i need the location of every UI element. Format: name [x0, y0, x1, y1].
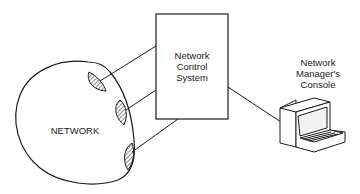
connection-line-3: [132, 119, 178, 152]
connection-line-console: [228, 87, 281, 122]
console-label: Network Manager's Console: [282, 57, 354, 90]
console-label-line2: Manager's: [282, 68, 354, 79]
diagram-canvas: [0, 0, 360, 194]
control-system-label: Network Control System: [156, 50, 228, 83]
control-system-label-line1: Network: [156, 50, 228, 61]
connection-line-1: [100, 46, 156, 81]
control-system-label-line2: Control: [156, 61, 228, 72]
network-cloud: [16, 61, 135, 184]
console-label-line3: Console: [282, 79, 354, 90]
connection-line-2: [126, 90, 156, 110]
console-terminal-icon: [280, 98, 345, 152]
console-label-line1: Network: [282, 57, 354, 68]
control-system-label-line3: System: [156, 72, 228, 83]
network-label-text: NETWORK: [40, 125, 110, 136]
network-label: NETWORK: [40, 125, 110, 136]
